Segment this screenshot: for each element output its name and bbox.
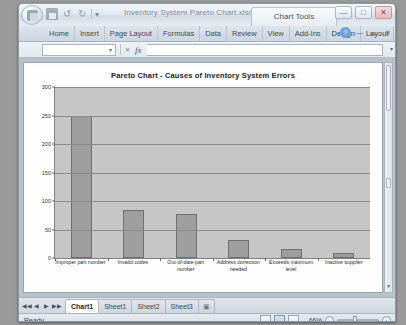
sheet-navigation-buttons: ◀◀ ◀ ▶ ▶▶ xyxy=(22,302,61,309)
tab-page-layout[interactable]: Page Layout xyxy=(105,26,158,41)
office-logo-icon xyxy=(27,10,38,21)
minimize-button[interactable]: — xyxy=(335,6,352,19)
scroll-down-icon[interactable]: ▼ xyxy=(386,282,391,290)
page-layout-view-icon[interactable] xyxy=(274,315,285,322)
work-area: Pareto Chart - Causes of Inventory Syste… xyxy=(19,58,395,297)
tab-format[interactable]: Format xyxy=(394,26,396,41)
x-axis-category-label: Address correction needed xyxy=(212,259,265,283)
tab-formulas[interactable]: Formulas xyxy=(158,26,200,41)
close-button[interactable]: ✕ xyxy=(375,6,392,19)
more-icon[interactable]: ▾ xyxy=(95,10,99,19)
close-workbook-button[interactable]: ✕ xyxy=(382,27,393,38)
status-bar: Ready 66% − + xyxy=(19,313,395,322)
zoom-out-button[interactable]: − xyxy=(325,316,334,323)
ribbon-tab-bar: Home Insert Page Layout Formulas Data Re… xyxy=(19,26,395,42)
window-controls: — □ ✕ xyxy=(335,6,392,19)
sheet-tab-sheet3[interactable]: Sheet3 xyxy=(165,299,199,313)
office-button[interactable] xyxy=(21,5,43,25)
save-icon[interactable] xyxy=(46,8,58,20)
y-axis-tick-mark xyxy=(52,144,55,145)
bar[interactable] xyxy=(281,249,302,258)
cancel-icon[interactable]: ✕ xyxy=(125,46,130,53)
y-axis-tick-label: 100 xyxy=(42,198,51,204)
chart-sheet[interactable]: Pareto Chart - Causes of Inventory Syste… xyxy=(23,62,383,293)
maximize-button[interactable]: □ xyxy=(355,6,372,19)
previous-sheet-icon[interactable]: ◀ xyxy=(32,302,41,309)
tab-home[interactable]: Home xyxy=(44,26,75,41)
formula-bar-divider xyxy=(120,44,121,55)
x-axis-labels: Improper part numberInvalid codesOut-of-… xyxy=(54,259,370,283)
chart-tools-context-tab[interactable]: Chart Tools xyxy=(251,7,337,26)
redo-icon[interactable]: ↻ xyxy=(76,8,88,20)
zoom-in-button[interactable]: + xyxy=(382,316,391,323)
sheet-tab-bar: ◀◀ ◀ ▶ ▶▶ Chart1 Sheet1 Sheet2 Sheet3 ▣ xyxy=(19,297,395,313)
split-handle[interactable] xyxy=(386,178,391,188)
toolbar-divider xyxy=(91,9,92,19)
gridline xyxy=(55,173,370,174)
status-bar-right: 66% − + xyxy=(260,315,391,322)
chevron-down-icon[interactable]: ▾ xyxy=(109,46,112,53)
y-axis-tick-label: 300 xyxy=(42,84,51,90)
chart-area[interactable]: Pareto Chart - Causes of Inventory Syste… xyxy=(28,66,378,289)
tab-insert[interactable]: Insert xyxy=(75,26,105,41)
y-axis-tick-label: 150 xyxy=(42,170,51,176)
formula-bar: ▾ ✕ fx ▾ xyxy=(19,42,395,58)
restore-window-button[interactable]: ▭ xyxy=(368,27,379,38)
vertical-scrollbar[interactable]: ▲ ▼ xyxy=(384,62,393,293)
insert-function-icon[interactable]: fx xyxy=(135,45,142,55)
x-axis-category-label: Improper part number xyxy=(54,259,107,283)
tab-view[interactable]: View xyxy=(263,26,290,41)
bar[interactable] xyxy=(71,116,92,259)
bar[interactable] xyxy=(228,240,249,258)
help-icon[interactable]: ? xyxy=(340,27,351,38)
zoom-slider[interactable] xyxy=(337,319,379,322)
excel-window: ↺ ↻ ▾ Inventory System Pareto Chart.xlsm… xyxy=(18,3,396,322)
y-axis-tick-label: 250 xyxy=(42,113,51,119)
tab-review[interactable]: Review xyxy=(227,26,263,41)
scrollbar-thumb[interactable] xyxy=(386,65,391,111)
zoom-slider-thumb[interactable] xyxy=(353,316,357,323)
y-axis-tick-mark xyxy=(52,172,55,173)
plot-canvas[interactable]: 050100150200250300 xyxy=(54,87,370,259)
name-box[interactable]: ▾ xyxy=(42,44,116,56)
gridline xyxy=(55,230,370,231)
y-axis-tick-mark xyxy=(52,115,55,116)
y-axis-tick-label: 0 xyxy=(48,255,51,261)
minimize-ribbon-button[interactable]: — xyxy=(354,27,365,38)
bar[interactable] xyxy=(123,210,144,258)
undo-icon[interactable]: ↺ xyxy=(61,8,73,20)
formula-input[interactable] xyxy=(147,44,384,56)
bar[interactable] xyxy=(176,214,197,258)
tab-data[interactable]: Data xyxy=(200,26,227,41)
x-axis-category-label: Out-of-date part number xyxy=(159,259,212,283)
y-axis-tick-mark xyxy=(52,201,55,202)
first-sheet-icon[interactable]: ◀◀ xyxy=(22,302,31,309)
y-axis-tick-mark xyxy=(52,229,55,230)
x-axis-category-label: Inactive supplier xyxy=(317,259,370,283)
title-bar: ↺ ↻ ▾ Inventory System Pareto Chart.xlsm… xyxy=(19,4,395,26)
next-sheet-icon[interactable]: ▶ xyxy=(42,302,51,309)
normal-view-icon[interactable] xyxy=(260,315,271,322)
ribbon-window-controls: ? — ▭ ✕ xyxy=(340,27,393,38)
quick-access-toolbar: ↺ ↻ ▾ xyxy=(46,8,99,20)
tab-add-ins[interactable]: Add-Ins xyxy=(290,26,327,41)
plot-area[interactable]: 050100150200250300 xyxy=(54,87,370,259)
sheet-tab-sheet1[interactable]: Sheet1 xyxy=(98,299,132,313)
gridline xyxy=(55,116,370,117)
sheet-tab-sheet2[interactable]: Sheet2 xyxy=(131,299,165,313)
chart-title[interactable]: Pareto Chart - Causes of Inventory Syste… xyxy=(28,71,378,80)
insert-worksheet-icon[interactable]: ▣ xyxy=(198,299,215,313)
gridline xyxy=(55,87,370,88)
y-axis-tick-mark xyxy=(52,87,55,88)
last-sheet-icon[interactable]: ▶▶ xyxy=(52,302,61,309)
page-break-view-icon[interactable] xyxy=(288,315,299,322)
sheet-tab-chart1[interactable]: Chart1 xyxy=(65,299,99,313)
zoom-level[interactable]: 66% xyxy=(302,317,322,323)
y-axis-tick-label: 200 xyxy=(42,141,51,147)
expand-formula-bar-icon[interactable]: ▾ xyxy=(390,45,393,52)
x-axis-category-label: Exceeds maximum level xyxy=(265,259,318,283)
gridline xyxy=(55,201,370,202)
bar[interactable] xyxy=(333,253,354,258)
y-axis-tick-label: 50 xyxy=(45,227,51,233)
gridline xyxy=(55,144,370,145)
